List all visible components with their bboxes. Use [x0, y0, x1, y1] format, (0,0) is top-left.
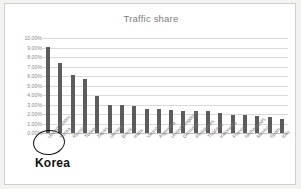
screenshot-frame: Traffic share 10.00%9.00%8.00%7.00%6.00%…: [0, 0, 301, 189]
bar: [132, 106, 136, 133]
korea-callout-label: Korea: [35, 156, 70, 170]
bar: [46, 47, 50, 133]
bar: [71, 75, 75, 133]
bar-series: [42, 38, 288, 133]
y-axis: 10.00%9.00%8.00%7.00%6.00%5.00%4.00%3.00…: [11, 34, 42, 139]
chart-container: Traffic share 10.00%9.00%8.00%7.00%6.00%…: [4, 3, 296, 185]
bar: [83, 79, 87, 133]
chart-title: Traffic share: [5, 13, 297, 24]
bar: [145, 109, 149, 133]
